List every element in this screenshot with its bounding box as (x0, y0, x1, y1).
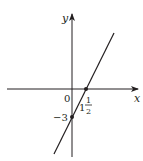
y-axis-label: y (61, 12, 69, 25)
graph-figure: y x 0 −3 1 1 2 (0, 0, 143, 161)
y-intercept-label: −3 (53, 112, 68, 123)
graph-canvas: y x 0 −3 1 1 2 (0, 0, 143, 161)
x-intercept-numerator: 1 (86, 96, 91, 105)
origin-label: 0 (64, 93, 70, 104)
x-intercept-whole: 1 (79, 102, 85, 113)
y-intercept-point (70, 115, 74, 119)
x-axis-label: x (134, 92, 141, 105)
graph-line (54, 33, 114, 154)
x-intercept-point (84, 87, 88, 91)
x-intercept-denominator: 2 (86, 107, 91, 116)
